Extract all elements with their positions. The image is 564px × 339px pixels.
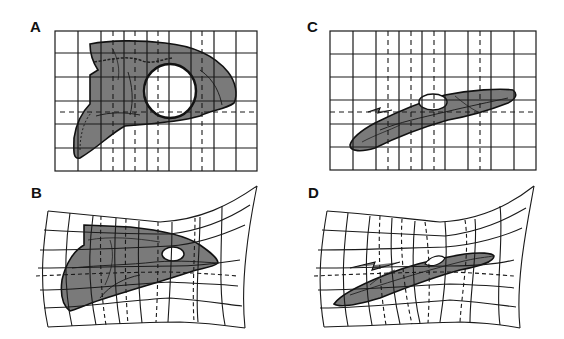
panel-b (36, 186, 257, 328)
panel-d (314, 186, 534, 328)
figure-canvas (0, 0, 564, 339)
grid-d (314, 186, 534, 328)
panel-c (330, 31, 536, 170)
skull-a (74, 41, 236, 158)
panel-a (55, 31, 257, 171)
